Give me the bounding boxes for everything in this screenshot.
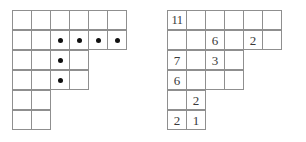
diagram-cell-absent — [88, 70, 108, 90]
diagram-cell[interactable] — [31, 10, 51, 30]
diagram-cell[interactable] — [224, 70, 244, 90]
diagram-cell-absent — [245, 110, 265, 130]
diagram-cell[interactable] — [12, 70, 32, 90]
diagram-cell[interactable] — [69, 10, 89, 30]
diagram-cell-absent — [245, 90, 265, 110]
diagram-cell-absent — [50, 90, 70, 110]
diagram-cell[interactable] — [12, 10, 32, 30]
diagram-cell[interactable] — [186, 70, 206, 90]
diagram-cell[interactable] — [31, 50, 51, 70]
diagram-cell[interactable] — [167, 90, 187, 110]
diagram-cell-absent — [70, 90, 90, 110]
diagram-cell-absent — [243, 50, 263, 70]
diagram-cell[interactable] — [31, 30, 51, 50]
cell-value: 2 — [174, 114, 181, 127]
diagram-cell[interactable] — [31, 90, 51, 110]
diagram-cell[interactable] — [69, 70, 89, 90]
diagram-cell[interactable] — [12, 50, 32, 70]
diagram-cell-absent — [205, 90, 225, 110]
diagram-cell[interactable] — [31, 70, 51, 90]
diagram-cell-absent — [70, 110, 90, 130]
diagram-cell-absent — [108, 70, 128, 90]
diagram-cell-absent — [225, 110, 245, 130]
diagram-cell[interactable] — [224, 30, 244, 50]
diagram-cell-marked[interactable] — [50, 70, 70, 90]
diagram-cell-absent — [263, 70, 283, 90]
diagram-cell-filled[interactable]: 3 — [205, 50, 225, 70]
dot-marker-icon — [96, 38, 101, 43]
diagram-cell-filled[interactable]: 2 — [167, 110, 187, 130]
diagram-cell-marked[interactable] — [50, 30, 70, 50]
diagram-row: 11 — [167, 10, 285, 30]
dot-marker-icon — [58, 38, 63, 43]
diagram-row — [12, 10, 130, 30]
diagram-cell-absent — [265, 110, 285, 130]
diagram-cell[interactable] — [12, 30, 32, 50]
cell-value: 6 — [212, 34, 219, 47]
diagram-cell[interactable] — [243, 10, 263, 30]
diagram-cell[interactable] — [107, 10, 127, 30]
diagram-row: 62 — [167, 30, 285, 50]
diagram-cell-absent — [225, 90, 245, 110]
diagram-cell-filled[interactable]: 1 — [186, 110, 206, 130]
diagram-cell-absent — [108, 50, 128, 70]
diagram-cell-absent — [205, 110, 225, 130]
diagram-row: 2 — [167, 90, 285, 110]
diagram-cell-filled[interactable]: 11 — [167, 10, 187, 30]
diagram-cell-absent — [243, 70, 263, 90]
diagram-cell[interactable] — [205, 70, 225, 90]
cell-value: 2 — [193, 94, 200, 107]
diagram-cell-marked[interactable] — [69, 30, 89, 50]
diagram-cell-filled[interactable]: 2 — [243, 30, 263, 50]
cell-value: 6 — [174, 74, 181, 87]
diagram-row — [12, 90, 130, 110]
diagram-cell[interactable] — [12, 110, 32, 130]
diagram-cell[interactable] — [12, 90, 32, 110]
diagram-row: 73 — [167, 50, 285, 70]
diagram-cell[interactable] — [205, 10, 225, 30]
cell-value: 3 — [212, 54, 219, 67]
diagram-cell[interactable] — [186, 30, 206, 50]
diagram-cell[interactable] — [262, 10, 282, 30]
diagram-row — [12, 50, 130, 70]
diagram-cell-filled[interactable]: 6 — [205, 30, 225, 50]
diagram-cell[interactable] — [262, 30, 282, 50]
diagram-cell-marked[interactable] — [107, 30, 127, 50]
dot-marker-icon — [115, 38, 120, 43]
diagram-row — [12, 30, 130, 50]
diagram-cell[interactable] — [50, 10, 70, 30]
diagram-row — [12, 70, 130, 90]
diagram-cell-absent — [265, 90, 285, 110]
diagram-cell-absent — [90, 110, 110, 130]
diagram-cell[interactable] — [31, 110, 51, 130]
diagram-cell-absent — [110, 110, 130, 130]
diagram-cell[interactable] — [224, 10, 244, 30]
diagram-cell[interactable] — [224, 50, 244, 70]
cell-value: 11 — [171, 14, 182, 27]
diagram-cell-filled[interactable]: 7 — [167, 50, 187, 70]
diagram-cell[interactable] — [186, 10, 206, 30]
dot-marker-icon — [58, 58, 63, 63]
dot-marker-icon — [58, 78, 63, 83]
cell-value: 1 — [193, 114, 200, 127]
diagram-cell[interactable] — [69, 50, 89, 70]
diagram-cell-filled[interactable]: 6 — [167, 70, 187, 90]
cell-value: 2 — [250, 34, 257, 47]
diagram-cell-absent — [90, 90, 110, 110]
left-young-diagram — [12, 10, 130, 130]
diagram-cell[interactable] — [186, 50, 206, 70]
diagram-cell-marked[interactable] — [50, 50, 70, 70]
diagram-cell-marked[interactable] — [88, 30, 108, 50]
dot-marker-icon — [77, 38, 82, 43]
cell-value: 7 — [174, 54, 181, 67]
diagram-cell-absent — [110, 90, 130, 110]
diagram-cell-filled[interactable]: 2 — [186, 90, 206, 110]
right-young-diagram: 1162736221 — [167, 10, 285, 130]
diagram-cell-absent — [50, 110, 70, 130]
diagram-row: 6 — [167, 70, 285, 90]
diagram-row: 21 — [167, 110, 285, 130]
diagram-cell-absent — [88, 50, 108, 70]
diagram-figure: 1162736221 — [0, 0, 306, 142]
diagram-cell[interactable] — [167, 30, 187, 50]
diagram-cell[interactable] — [88, 10, 108, 30]
